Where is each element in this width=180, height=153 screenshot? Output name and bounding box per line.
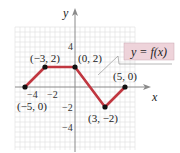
y-tick-neg2: −2 <box>62 102 73 113</box>
point-3-neg2 <box>102 104 107 109</box>
y-axis-label: y <box>62 6 69 20</box>
point-0-2 <box>72 64 77 69</box>
function-label: y = f(x) <box>130 45 167 59</box>
y-tick-neg4: −4 <box>62 122 73 133</box>
point-5-0 <box>122 84 127 89</box>
x-tick-neg2: −2 <box>47 89 58 100</box>
point-label-5-0: (5, 0) <box>113 70 137 83</box>
point-neg3-2 <box>42 64 47 69</box>
point-label-0-2: (0, 2) <box>78 52 102 65</box>
function-graph: x y −4 −2 4 −2 −4 y = f(x) (−5, 0) (−3, … <box>0 0 180 153</box>
x-axis-label: x <box>151 90 158 104</box>
point-label-neg3-2: (−3, 2) <box>30 52 60 65</box>
point-label-3-neg2: (3, −2) <box>88 112 118 125</box>
y-tick-4: 4 <box>68 41 73 52</box>
x-tick-neg4: −4 <box>27 89 38 100</box>
point-label-neg5-0: (−5, 0) <box>17 100 47 113</box>
point-neg5-0 <box>22 84 27 89</box>
